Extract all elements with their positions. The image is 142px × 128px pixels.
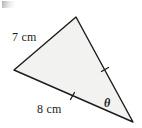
geometry-figure: 7 cm 8 cm θ bbox=[0, 0, 142, 128]
angle-label-theta: θ bbox=[104, 97, 110, 109]
side-label-7cm: 7 cm bbox=[12, 31, 36, 43]
triangle-diagram bbox=[0, 0, 142, 128]
side-label-8cm: 8 cm bbox=[37, 103, 61, 115]
